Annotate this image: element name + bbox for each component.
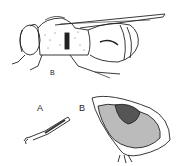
label-leg: A bbox=[37, 103, 43, 113]
label-main: B bbox=[50, 69, 55, 76]
bee-lateral-view bbox=[12, 14, 165, 78]
bee-illustration bbox=[0, 0, 176, 166]
cross-section-detail bbox=[92, 96, 170, 163]
label-section: B bbox=[79, 103, 85, 113]
leg-detail bbox=[24, 117, 70, 144]
